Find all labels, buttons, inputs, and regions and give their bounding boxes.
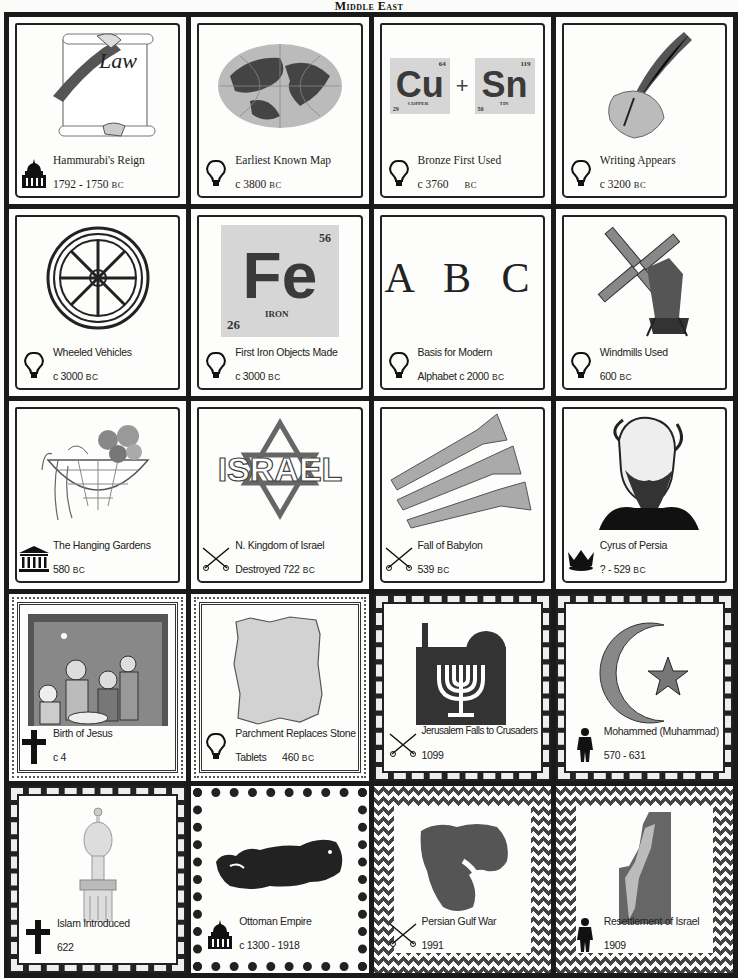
crossed-swords-icon xyxy=(384,539,414,579)
lightbulb-icon xyxy=(566,346,596,386)
element-tile-iron: Fe 56 IRON 26 xyxy=(221,225,339,337)
card-windmills: Windmills Used 600BC xyxy=(556,209,733,396)
card-title: Birth of Jesus xyxy=(53,727,112,739)
card-kingdom-of-israel: ISRAEL N. Kingdom of Israel Destroyed 72… xyxy=(191,401,368,588)
abc-letters: A B C xyxy=(385,254,540,302)
card-date: 580BC xyxy=(53,563,85,575)
menorah-skyline-illustration xyxy=(382,610,543,735)
person-icon xyxy=(570,915,600,955)
lightbulb-icon xyxy=(201,727,231,767)
element-tile-illustration: Fe 56 IRON 26 xyxy=(199,215,360,340)
svg-text:Law: Law xyxy=(98,48,137,73)
crown-icon xyxy=(566,539,596,579)
card-title: The Hanging Gardens xyxy=(53,539,151,551)
card-date: c 3000BC xyxy=(235,370,281,382)
card-iron: Fe 56 IRON 26 First Iron Objects Made c … xyxy=(191,209,368,396)
card-title: Mohammed (Muhammad) xyxy=(604,725,719,737)
card-title: Fall of Babylon xyxy=(418,539,483,551)
card-date: 622 xyxy=(57,941,74,953)
element-tile-tin: Sn 119 TIN 50 xyxy=(475,58,535,114)
quill-hand-illustration xyxy=(564,23,725,148)
card-date: 1991 xyxy=(422,939,444,951)
card-title: Windmills Used xyxy=(600,346,668,358)
card-earliest-map: Earliest Known Map c 3800BC xyxy=(191,17,368,204)
government-building-icon xyxy=(205,915,235,955)
card-persian-gulf-war: Persian Gulf War 1991 xyxy=(374,786,551,973)
card-fall-of-babylon: Fall of Babylon 539BC xyxy=(374,401,551,588)
card-resettlement-israel: Resettlement of Israel 1909 xyxy=(556,786,733,973)
card-date: c 3760BC xyxy=(418,178,477,190)
government-building-icon xyxy=(19,154,49,194)
card-date: 539BC xyxy=(418,563,450,575)
lightbulb-icon xyxy=(201,154,231,194)
nativity-illustration xyxy=(17,608,178,733)
card-wheeled-vehicles: Wheeled Vehicles c 3000BC xyxy=(9,209,186,396)
card-title: Jerusalem Falls to Crusaders xyxy=(422,725,538,736)
card-mohammed: Mohammed (Muhammad) 570 - 631 xyxy=(556,594,733,781)
wheel-illustration xyxy=(17,215,178,340)
cross-icon xyxy=(19,727,49,767)
card-writing: Writing Appears c 3200BC xyxy=(556,17,733,204)
crossed-swords-icon xyxy=(388,915,418,955)
card-title: First Iron Objects Made xyxy=(235,346,337,358)
card-title: Resettlement of Israel xyxy=(604,915,700,927)
card-title: Cyrus of Persia xyxy=(600,539,667,551)
letters-illustration: A B C xyxy=(382,215,543,340)
card-date: c 1300 - 1918 xyxy=(239,939,299,951)
card-title: Basis for Modern xyxy=(418,346,493,358)
crescent-star-illustration xyxy=(564,610,725,735)
card-title: Earliest Known Map xyxy=(235,154,331,166)
card-islam-introduced: Islam Introduced 622 xyxy=(9,786,186,973)
card-date: 1099 xyxy=(422,749,444,761)
card-date: Alphabet c 2000BC xyxy=(418,370,505,382)
card-date: c 3200BC xyxy=(600,178,646,190)
card-date: c 3000BC xyxy=(53,370,99,382)
lightbulb-icon xyxy=(201,346,231,386)
card-date: 570 - 631 xyxy=(604,749,646,761)
page-title: Middle East xyxy=(0,0,738,12)
card-birth-of-jesus: Birth of Jesus c 4 xyxy=(9,594,186,781)
card-cyrus: Cyrus of Persia ? - 529BC xyxy=(556,401,733,588)
cross-icon xyxy=(23,917,53,957)
crossed-swords-icon xyxy=(201,539,231,579)
card-title: Islam Introduced xyxy=(57,917,130,929)
timeline-card-grid: Law Hammurabi's Reign 1792 - 1750BC Earl… xyxy=(4,12,738,978)
card-title: Writing Appears xyxy=(600,154,676,166)
temple-icon xyxy=(19,539,49,579)
card-date: Destroyed 722BC xyxy=(235,563,315,575)
globe-illustration xyxy=(199,23,360,148)
card-date: c 3800BC xyxy=(235,178,281,190)
crossed-swords-icon xyxy=(388,725,418,765)
portrait-illustration xyxy=(564,407,725,532)
card-ottoman-empire: Ottoman Empire c 1300 - 1918 xyxy=(191,786,368,973)
svg-text:ISRAEL: ISRAEL xyxy=(218,450,343,488)
card-title: N. Kingdom of Israel xyxy=(235,539,324,551)
card-title: Bronze First Used xyxy=(418,154,502,166)
card-title: Parchment Replaces Stone xyxy=(235,727,356,739)
israel-star-illustration: ISRAEL xyxy=(199,407,360,532)
windmill-illustration xyxy=(564,215,725,340)
law-scroll-illustration: Law xyxy=(17,23,178,148)
card-parchment: Parchment Replaces Stone Tablets 460BC xyxy=(191,594,368,781)
parchment-illustration xyxy=(199,608,360,733)
card-title: Wheeled Vehicles xyxy=(53,346,132,358)
trumpets-illustration xyxy=(382,407,543,532)
card-alphabet: A B C Basis for Modern Alphabet c 2000BC xyxy=(374,209,551,396)
card-title: Ottoman Empire xyxy=(239,915,311,927)
lightbulb-icon xyxy=(384,154,414,194)
card-date: Tablets 460BC xyxy=(235,751,314,763)
card-date: 600BC xyxy=(600,370,632,382)
card-hanging-gardens: The Hanging Gardens 580BC xyxy=(9,401,186,588)
card-title: Persian Gulf War xyxy=(422,915,497,927)
card-jerusalem-crusaders: Jerusalem Falls to Crusaders 1099 xyxy=(374,594,551,781)
lightbulb-icon xyxy=(384,346,414,386)
minaret-illustration xyxy=(17,802,178,927)
card-hammurabi: Law Hammurabi's Reign 1792 - 1750BC xyxy=(9,17,186,204)
card-date: ? - 529BC xyxy=(600,563,646,575)
person-icon xyxy=(570,725,600,765)
card-bronze: Cu 64 COPPER 29 + Sn 119 TIN 50 Bronze F… xyxy=(374,17,551,204)
element-tile-copper: Cu 64 COPPER 29 xyxy=(390,58,450,114)
card-date: c 4 xyxy=(53,751,66,763)
element-tiles-illustration: Cu 64 COPPER 29 + Sn 119 TIN 50 xyxy=(382,23,543,148)
card-date: 1909 xyxy=(604,939,626,951)
